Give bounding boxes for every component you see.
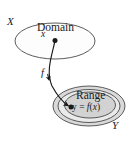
set-x-label: X	[7, 16, 14, 27]
output-point-arg: (x)	[90, 102, 101, 112]
output-point-arg-var: x	[93, 102, 97, 112]
function-name-label: f	[41, 68, 44, 79]
input-point-label: x	[41, 30, 45, 40]
output-point-label: y = f(x)	[72, 103, 100, 113]
function-mapping-diagram: X Domain x f Range y = f(x) Y	[0, 0, 139, 142]
input-point-dot	[53, 38, 58, 43]
output-point-prefix: y =	[72, 102, 87, 112]
set-y-label: Y	[112, 120, 118, 131]
range-label: Range	[76, 90, 105, 102]
